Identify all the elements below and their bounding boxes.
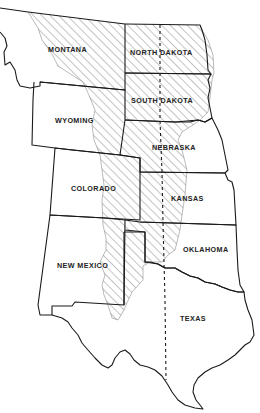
label-wyoming: WYOMING — [55, 116, 94, 125]
label-south-dakota: SOUTH DAKOTA — [131, 96, 193, 105]
label-nebraska: NEBRASKA — [152, 143, 196, 152]
label-oklahoma: OKLAHOMA — [183, 245, 229, 254]
label-montana: MONTANA — [48, 45, 87, 54]
label-kansas: KANSAS — [171, 194, 204, 203]
label-colorado: COLORADO — [71, 184, 116, 193]
label-texas: TEXAS — [180, 314, 206, 323]
great-plains-map: MONTANA NORTH DAKOTA WYOMING SOUTH DAKOT… — [0, 0, 260, 413]
label-new-mexico: NEW MEXICO — [57, 261, 108, 270]
label-north-dakota: NORTH DAKOTA — [130, 48, 193, 57]
